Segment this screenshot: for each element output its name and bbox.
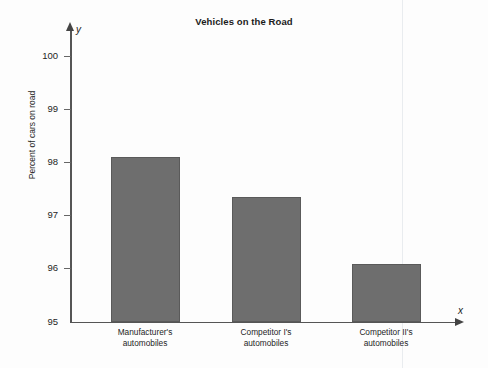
bar-manufacturers-automobiles xyxy=(111,157,180,322)
x-category-label-1: Competitor I's automobiles xyxy=(201,327,331,349)
y-tick-label-99: 99 xyxy=(24,103,58,114)
y-tick-label-95: 95 xyxy=(24,316,58,327)
y-tick-mark-98 xyxy=(64,162,71,163)
y-tick-mark-100 xyxy=(64,56,71,57)
x-category-label-0: Manufacturer's automobiles xyxy=(80,327,210,349)
y-tick-mark-96 xyxy=(64,268,71,269)
bar-competitor-ii-automobiles xyxy=(352,264,421,322)
y-tick-label-98: 98 xyxy=(24,156,58,167)
y-axis-variable-label: y xyxy=(76,24,81,35)
x-category-label-2: Competitor II's automobiles xyxy=(321,327,451,349)
x-category-label-0-line-2: automobiles xyxy=(80,338,210,349)
y-tick-mark-99 xyxy=(64,109,71,110)
y-tick-label-100: 100 xyxy=(24,50,58,61)
x-category-label-2-line-2: automobiles xyxy=(321,338,451,349)
y-axis-title: Percent of cars on road xyxy=(27,65,37,205)
x-axis-arrow-icon xyxy=(455,318,464,326)
x-axis-variable-label: x xyxy=(458,305,463,316)
y-axis-line xyxy=(70,30,72,323)
bar-competitor-i-automobiles xyxy=(232,197,301,322)
y-tick-label-97: 97 xyxy=(24,209,58,220)
x-category-label-1-line-2: automobiles xyxy=(201,338,331,349)
x-category-label-2-line-1: Competitor II's xyxy=(321,327,451,338)
x-category-label-0-line-1: Manufacturer's xyxy=(80,327,210,338)
y-tick-mark-97 xyxy=(64,215,71,216)
y-axis-arrow-icon xyxy=(66,22,74,31)
chart-figure: Vehicles on the Road y x Percent of cars… xyxy=(0,0,488,368)
x-category-label-1-line-1: Competitor I's xyxy=(201,327,331,338)
y-tick-label-96: 96 xyxy=(24,262,58,273)
